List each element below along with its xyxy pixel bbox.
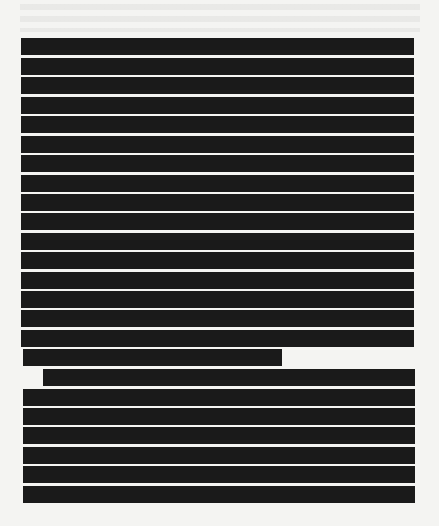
redaction-bar xyxy=(21,155,414,172)
redaction-bar xyxy=(23,389,415,406)
redaction-bar xyxy=(23,447,415,464)
redaction-bar xyxy=(21,213,414,230)
redaction-bar xyxy=(21,58,414,75)
redaction-bar xyxy=(43,369,415,386)
redaction-bar xyxy=(21,291,414,308)
redacted-document-page xyxy=(0,0,439,526)
redaction-bar xyxy=(21,330,414,347)
faint-header-bleed-through xyxy=(20,4,420,32)
redaction-bar xyxy=(21,175,414,192)
redaction-bar xyxy=(23,349,282,366)
redaction-bar xyxy=(23,466,415,483)
redaction-bar xyxy=(21,116,414,133)
redaction-bar xyxy=(21,233,414,250)
redaction-bar xyxy=(21,136,414,153)
redaction-bar xyxy=(21,310,414,327)
redaction-bar xyxy=(21,38,414,55)
redaction-bar xyxy=(23,486,415,503)
redaction-bar xyxy=(21,252,414,269)
redaction-bar xyxy=(21,272,414,289)
redaction-bar xyxy=(23,427,415,444)
redaction-bar xyxy=(21,77,414,94)
redaction-bar xyxy=(23,408,415,425)
redaction-bar xyxy=(21,194,414,211)
redaction-bar xyxy=(21,97,414,114)
